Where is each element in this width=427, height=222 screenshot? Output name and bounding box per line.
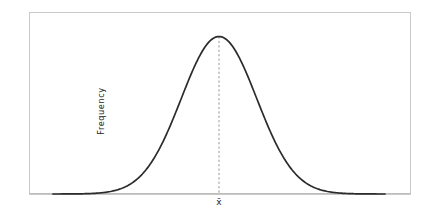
normal-distribution-figure: Frequency x̄	[0, 0, 427, 222]
x-axis-mean-tick-label: x̄	[199, 197, 239, 207]
plot-frame	[30, 13, 411, 195]
chart-canvas	[0, 0, 427, 222]
